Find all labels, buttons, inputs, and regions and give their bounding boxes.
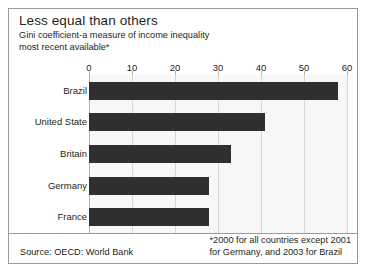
plot-wrapper: 0102030405060 BrazilUnited StateBritainG… [9,61,357,233]
chart-subtitle-line-2: most recent available* [19,42,339,54]
chart-subtitle-line-1: Gini coefficient-a measure of income ine… [19,30,339,42]
asterisk-note: *2000 for all countries except 2001 for … [210,235,351,258]
category-label-brazil: Brazil [63,85,87,97]
bar-row: Brazil [9,75,357,107]
chart-title: Less equal than others [19,13,339,29]
chart-figure: Less equal than others Gini coefficient-… [8,8,358,264]
chart-header: Less equal than others Gini coefficient-… [19,13,339,53]
bar-row: Britain [9,138,357,170]
bar-britain [89,145,231,163]
bar-germany [89,177,209,195]
asterisk-note-line-2: for Germany, and 2003 for Brazil [210,247,351,259]
category-label-britain: Britain [60,148,87,160]
bar-rows: BrazilUnited StateBritainGermanyFrance [9,75,357,233]
bar-row: Germany [9,170,357,202]
category-label-united-state: United State [35,116,87,128]
chart-footer: Source: OECD: World Bank *2000 for all c… [9,233,357,263]
bar-france [89,208,209,226]
category-label-france: France [57,211,87,223]
bar-brazil [89,82,338,100]
bar-row: United State [9,107,357,139]
source-note: Source: OECD: World Bank [20,247,133,258]
bar-united-state [89,113,265,131]
footer-divider [9,233,357,234]
x-axis-tick-labels: 0102030405060 [9,61,357,75]
bar-row: France [9,201,357,233]
asterisk-note-line-1: *2000 for all countries except 2001 [210,235,351,247]
category-label-germany: Germany [48,180,87,192]
